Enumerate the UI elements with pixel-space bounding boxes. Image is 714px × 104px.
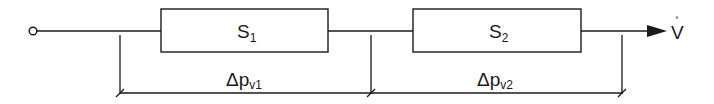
pressure-drop-2-label: Δpv2 bbox=[477, 69, 513, 92]
flow-arrow-icon bbox=[647, 25, 667, 37]
pressure-drop-1-label: Δpv1 bbox=[226, 69, 262, 92]
flow-dot-icon bbox=[676, 16, 679, 19]
series-flow-diagram: S1 S2 V Δpv1 Δpv2 bbox=[0, 0, 714, 104]
inlet-terminal bbox=[29, 27, 37, 35]
flow-label: V bbox=[671, 22, 684, 43]
